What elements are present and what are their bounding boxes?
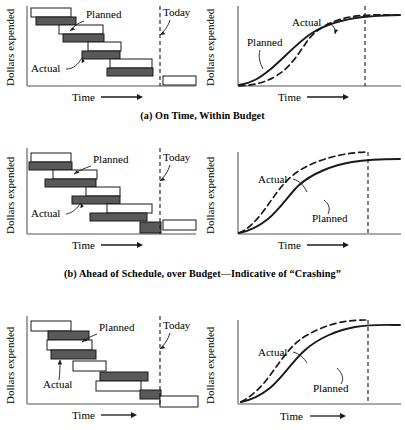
- y-axis-label: Dollars expended: [204, 156, 216, 234]
- planned-bar: [31, 8, 71, 17]
- scurve-chart-c: Dollars expended Actual Planned Time: [200, 296, 405, 406]
- today-leader-line: [160, 20, 170, 35]
- planned-label: Planned: [312, 212, 348, 224]
- actual-bar: [29, 162, 72, 170]
- planned-leader-line: [259, 50, 263, 69]
- caption-b: (b) Ahead of Schedule, over Budget—Indic…: [0, 268, 405, 279]
- figure-row-c: Dollars expended Planned Actual: [0, 296, 405, 406]
- planned-bar: [88, 42, 121, 51]
- actual-bar: [140, 390, 161, 399]
- today-leader-arrow: [160, 31, 165, 35]
- planned-bar: [96, 381, 141, 391]
- x-axis-label: Time: [278, 239, 301, 251]
- x-axis-label: Time: [72, 239, 95, 251]
- planned-bar: [59, 25, 103, 34]
- actual-leader-line: [66, 203, 81, 214]
- planned-bar: [160, 396, 198, 407]
- actual-bar: [72, 196, 120, 204]
- planned-bar: [53, 170, 97, 179]
- planned-label: Planned: [93, 153, 129, 165]
- planned-bar: [73, 361, 106, 371]
- planned-bar: [107, 204, 152, 213]
- actual-leader-line: [66, 58, 82, 69]
- planned-label: Planned: [86, 8, 122, 20]
- actual-label: Actual: [31, 207, 60, 219]
- planned-label: Planned: [99, 321, 135, 333]
- actual-bar: [63, 34, 104, 42]
- planned-label: Planned: [313, 382, 349, 394]
- figure-row-b: Dollars expended Planned Actual: [0, 134, 405, 244]
- y-axis-label: Dollars expended: [4, 8, 16, 86]
- planned-bar: [31, 321, 71, 331]
- today-label: Today: [163, 6, 191, 18]
- planned-bar: [86, 187, 120, 196]
- caption-a: (a) On Time, Within Budget: [0, 110, 405, 121]
- planned-bar: [163, 76, 196, 85]
- today-label: Today: [163, 319, 191, 331]
- today-leader-arrow: [160, 345, 165, 349]
- today-leader-arrow: [160, 177, 165, 181]
- planned-label: Planned: [247, 36, 283, 48]
- x-axis-arrow-head: [137, 94, 143, 100]
- planned-bar: [31, 153, 71, 162]
- actual-label: Actual: [258, 173, 287, 185]
- actual-label: Actual: [258, 346, 287, 358]
- y-axis-label: Dollars expended: [4, 156, 16, 234]
- actual-bar: [140, 222, 161, 233]
- actual-leader-arrow: [58, 360, 63, 365]
- figure-row-a: Dollars expended P: [0, 0, 405, 110]
- actual-bar: [36, 17, 76, 25]
- x-axis-label: Time: [280, 410, 303, 422]
- actual-bar: [100, 372, 148, 381]
- actual-bar: [45, 179, 96, 187]
- today-label: Today: [163, 151, 191, 163]
- actual-label: Actual: [31, 62, 60, 74]
- actual-curve: [241, 320, 368, 402]
- x-axis-arrow-head: [343, 94, 349, 100]
- scurve-chart-a: Dollars expended Actual Planned Time: [200, 0, 405, 110]
- actual-bar: [51, 350, 96, 359]
- actual-bar: [107, 68, 153, 76]
- x-axis-label: Time: [278, 91, 301, 103]
- actual-bar: [48, 331, 89, 340]
- gantt-chart-b: Dollars expended Planned Actual: [0, 134, 200, 244]
- actual-label: Actual: [43, 378, 72, 390]
- x-axis-arrow-head: [137, 242, 143, 248]
- x-axis-label: Time: [72, 409, 95, 421]
- actual-bar: [82, 51, 120, 59]
- y-axis-label: Dollars expended: [204, 8, 216, 86]
- x-axis-label: Time: [72, 91, 95, 103]
- actual-bar: [90, 213, 147, 221]
- project-tracking-figure: Dollars expended P: [0, 0, 405, 430]
- scurve-chart-b: Dollars expended Actual Planned Time: [200, 134, 405, 244]
- planned-bar: [110, 59, 152, 68]
- x-axis-arrow-head: [131, 412, 137, 418]
- actual-curve: [239, 152, 368, 233]
- planned-bar: [47, 340, 92, 350]
- today-leader-line: [160, 165, 170, 181]
- today-leader-line: [160, 333, 170, 349]
- y-axis-label: Dollars expended: [4, 326, 16, 404]
- gantt-chart-a: Dollars expended P: [0, 0, 200, 110]
- y-axis-label: Dollars expended: [204, 326, 216, 404]
- planned-bar: [163, 220, 196, 230]
- gantt-chart-c: Dollars expended Planned Actual: [0, 296, 200, 406]
- actual-label: Actual: [292, 16, 321, 28]
- x-axis-arrow-head: [343, 242, 349, 248]
- x-axis-arrow-head: [340, 413, 346, 419]
